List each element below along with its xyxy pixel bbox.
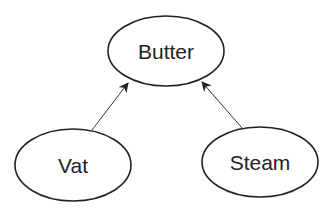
node-vat-label: Vat — [58, 154, 88, 177]
edge-steam-to-butter — [202, 82, 242, 128]
edge-vat-to-butter — [92, 83, 128, 130]
node-butter-label: Butter — [138, 40, 194, 63]
node-steam-label: Steam — [230, 151, 291, 174]
diagram-canvas: Butter Vat Steam — [0, 0, 335, 213]
node-steam[interactable]: Steam — [202, 127, 318, 197]
node-vat[interactable]: Vat — [15, 129, 131, 201]
edges-group — [92, 82, 242, 130]
node-butter[interactable]: Butter — [108, 16, 224, 86]
